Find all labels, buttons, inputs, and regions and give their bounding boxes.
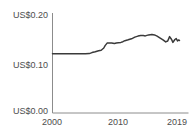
chart-axes [53, 13, 189, 113]
x-axis-tick-label-2019: 2019 [160, 117, 190, 128]
y-axis-tick-label-middle: US$0.10 [0, 60, 48, 71]
x-axis-tick-label-2010: 2010 [101, 117, 135, 128]
data-line [53, 34, 180, 53]
y-axis-tick-label-top: US$0.20 [0, 10, 48, 21]
exchange-rate-line-chart: US$0.20 US$0.10 US$0.00 2000 2010 2019 [0, 0, 190, 135]
y-axis-tick-label-bottom: US$0.00 [0, 106, 48, 117]
x-axis-tick-label-2000: 2000 [35, 117, 69, 128]
